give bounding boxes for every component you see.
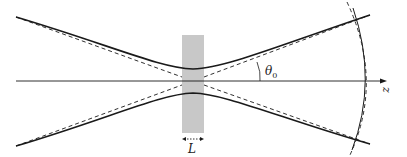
axis-label: z	[380, 86, 393, 93]
thickness-arrow-left-icon	[182, 137, 186, 141]
gaussian-beam-diagram: θ0 z L	[0, 0, 407, 157]
wavefront-dashed	[347, 2, 366, 155]
axis-arrowhead-icon	[380, 79, 387, 84]
asymptote-lower-left	[16, 85, 182, 146]
angle-arc	[257, 62, 260, 81]
asymptote-lower-right	[204, 85, 370, 144]
slab	[182, 35, 204, 133]
wavefront-solid	[352, 8, 365, 150]
angle-label: θ0	[265, 64, 277, 80]
thickness-label: L	[187, 142, 196, 156]
thickness-arrow-right-icon	[200, 137, 204, 141]
asymptote-upper-right	[204, 15, 370, 77]
asymptote-upper-left	[16, 17, 182, 77]
